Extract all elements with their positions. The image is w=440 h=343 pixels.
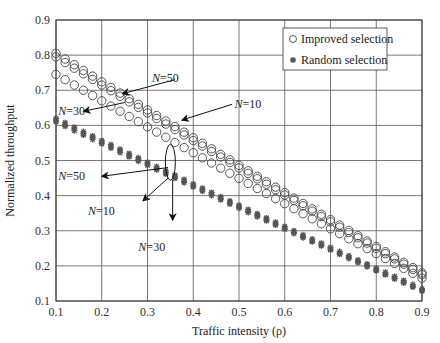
annotation-arrow <box>182 104 232 120</box>
y-tick-label: 0.5 <box>35 154 50 168</box>
y-tick-label: 0.2 <box>35 259 50 273</box>
annotation-label: N=30 <box>57 104 85 118</box>
annotation-ellipse <box>165 144 175 180</box>
y-tick-label: 0.4 <box>35 189 50 203</box>
annotation-label: N=10 <box>87 204 115 218</box>
y-tick-label: 0.7 <box>35 83 50 97</box>
y-tick-label: 0.8 <box>35 48 50 62</box>
y-tick-label: 0.9 <box>35 13 50 27</box>
x-axis-label: Traffic intensity (ρ) <box>192 324 286 338</box>
chart: 0.10.20.30.40.50.60.70.80.90.10.20.30.40… <box>0 0 440 343</box>
annotation-label: N=50 <box>57 169 85 183</box>
x-tick-label: 0.9 <box>415 305 430 319</box>
x-tick-label: 0.6 <box>277 305 292 319</box>
annotation-label: N=30 <box>137 240 165 254</box>
x-tick-label: 0.7 <box>323 305 338 319</box>
x-tick-label: 0.1 <box>49 305 64 319</box>
legend-random: Random selection <box>301 53 387 67</box>
y-tick-label: 0.1 <box>35 294 50 308</box>
x-tick-label: 0.2 <box>94 305 109 319</box>
y-tick-label: 0.3 <box>35 224 50 238</box>
x-tick-label: 0.8 <box>369 305 384 319</box>
x-tick-label: 0.3 <box>140 305 155 319</box>
annotation-arrow <box>122 80 175 94</box>
legend-improved: Improved selection <box>301 32 393 46</box>
x-tick-label: 0.4 <box>186 305 201 319</box>
legend: Improved selectionRandom selection <box>283 28 393 70</box>
annotation-label: N=10 <box>233 97 261 111</box>
x-tick-label: 0.5 <box>232 305 247 319</box>
y-tick-label: 0.6 <box>35 118 50 132</box>
annotation-arrow <box>143 178 168 201</box>
y-axis-label: Normalized throughput <box>3 104 17 217</box>
annotations: N=50N=10N=30N=50N=10N=30 <box>57 71 261 254</box>
